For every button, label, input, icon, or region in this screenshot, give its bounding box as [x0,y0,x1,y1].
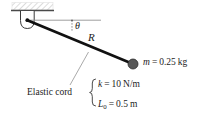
elastic-cord-leader-line [70,52,89,85]
elastic-cord-caption: Elastic cord [27,88,72,98]
ceiling-support [11,3,54,11]
ceiling-hatching [12,3,53,11]
angle-tick-dot-icon [71,20,73,22]
natural-length-unit: m [130,99,137,109]
stiffness-unit: N/m [123,79,140,89]
mass-unit: kg [178,57,188,67]
mass-equation-label: m=0.25kg [143,58,187,68]
mass-bob-icon [128,59,138,69]
natural-length-equation-label: L0=0.5m [98,100,137,111]
properties-curly-brace [90,79,96,106]
stiffness-equals: = [104,79,109,89]
angle-label-theta: θ [75,21,80,31]
stiffness-value: 10 [112,79,122,89]
stiffness-symbol: k [98,79,102,89]
natural-length-equals: = [109,99,114,109]
mass-symbol: m [143,57,150,67]
natural-length-value: 0.5 [116,99,128,109]
mass-equals: = [152,57,157,67]
radius-label-R: R [88,32,95,43]
physics-diagram-figure: θ R m=0.25kg Elastic cord k=10N/m L0=0.5… [0,0,205,118]
stiffness-equation-label: k=10N/m [98,80,140,90]
mass-value: 0.25 [159,57,176,67]
natural-length-subscript: 0 [103,103,106,110]
